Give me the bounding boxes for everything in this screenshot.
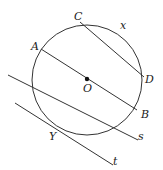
chord-cd <box>80 22 144 77</box>
label-b: B <box>140 108 149 121</box>
label-y: Y <box>49 130 58 143</box>
label-d: D <box>144 73 154 86</box>
label-a: A <box>30 40 39 53</box>
label-t: t <box>113 155 118 168</box>
label-c: C <box>74 10 83 23</box>
label-arc-x: x <box>120 19 127 32</box>
label-s: s <box>138 130 144 143</box>
geometry-diagram: C x A D O B s Y t <box>0 0 163 170</box>
line-s <box>8 75 138 140</box>
center-point <box>85 77 89 81</box>
label-o: O <box>83 82 92 95</box>
